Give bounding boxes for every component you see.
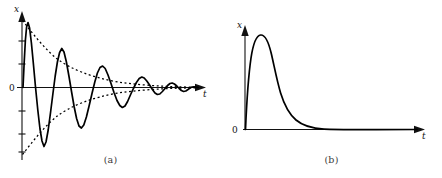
panel-b-y-axis-label: x — [237, 20, 242, 30]
panel-a-plot: x t 0 — [0, 0, 221, 160]
panel-a-y-axis-label: x — [14, 4, 19, 14]
panel-b-x-axis-label: t — [422, 131, 426, 141]
panel-a-origin-label: 0 — [9, 83, 15, 93]
panel-a-y-axis — [18, 11, 25, 160]
panel-a-underdamped: x t 0 (a) — [0, 0, 221, 178]
panel-a-damped-curve — [23, 23, 198, 147]
panel-b-decay-curve — [246, 35, 418, 130]
panel-b-origin-label: 0 — [232, 125, 238, 135]
panel-a-caption: (a) — [0, 154, 221, 165]
panel-a-x-axis-label: t — [203, 89, 207, 99]
panel-b-plot: x t 0 — [221, 0, 442, 160]
panel-b-caption: (b) — [221, 154, 442, 165]
panel-b-y-axis — [241, 25, 248, 130]
panel-b-overdamped: x t 0 (b) — [221, 0, 442, 178]
figure-root: x t 0 (a) x t — [0, 0, 442, 178]
